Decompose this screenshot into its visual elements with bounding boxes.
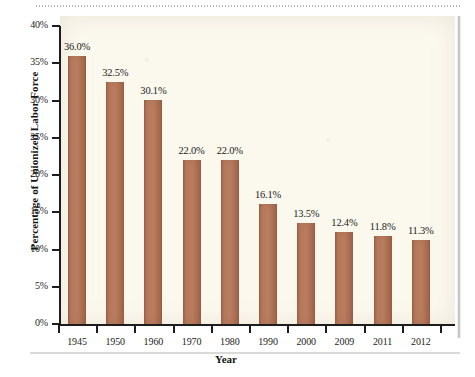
bar: [412, 240, 430, 324]
y-axis-tick-label: 5%: [8, 280, 48, 291]
bar: [335, 232, 353, 324]
x-axis-tick: [249, 325, 251, 333]
y-axis-tick: [52, 100, 60, 102]
bar: [374, 236, 392, 324]
y-axis-line: [59, 26, 61, 326]
bar-value-label: 32.5%: [87, 67, 143, 78]
bar: [68, 56, 86, 324]
bar: [183, 160, 201, 324]
x-axis-tick: [96, 325, 98, 333]
y-axis-tick-label: 40%: [8, 19, 48, 30]
x-axis-tick: [287, 325, 289, 333]
bar-value-label: 36.0%: [49, 41, 105, 52]
bar-value-label: 30.1%: [125, 85, 181, 96]
x-axis-tick: [173, 325, 175, 333]
scan-page-edge-shadow: [457, 16, 461, 338]
bar-value-label: 22.0%: [202, 145, 258, 156]
bar: [106, 82, 124, 324]
y-axis-title: Percentage of Unionized Labor Force: [28, 41, 40, 281]
y-axis-tick: [52, 249, 60, 251]
x-axis-line: [59, 324, 455, 326]
y-axis-tick: [52, 25, 60, 27]
y-axis-tick-label: 0%: [8, 317, 48, 328]
chart-figure: 0%5%10%15%20%25%30%35%40% 36.0%32.5%30.1…: [0, 0, 475, 377]
bar: [221, 160, 239, 324]
y-axis-tick: [52, 174, 60, 176]
y-axis-tick: [52, 62, 60, 64]
x-axis-tick: [402, 325, 404, 333]
x-axis-tick: [134, 325, 136, 333]
y-axis-tick: [52, 211, 60, 213]
x-axis-title: Year: [196, 353, 256, 365]
x-axis-tick: [325, 325, 327, 333]
bar: [297, 223, 315, 324]
bar-value-label: 11.3%: [393, 225, 449, 236]
bar: [144, 100, 162, 324]
x-axis-tick: [211, 325, 213, 333]
y-axis-tick: [52, 137, 60, 139]
bar: [259, 204, 277, 324]
x-axis-tick: [440, 325, 442, 333]
x-axis-tick: [364, 325, 366, 333]
bar-value-label: 16.1%: [240, 189, 296, 200]
x-axis-tick-label: 2012: [398, 336, 444, 347]
scan-perforation-line: [36, 5, 461, 7]
y-axis-tick: [52, 286, 60, 288]
x-axis-tick: [58, 325, 60, 333]
